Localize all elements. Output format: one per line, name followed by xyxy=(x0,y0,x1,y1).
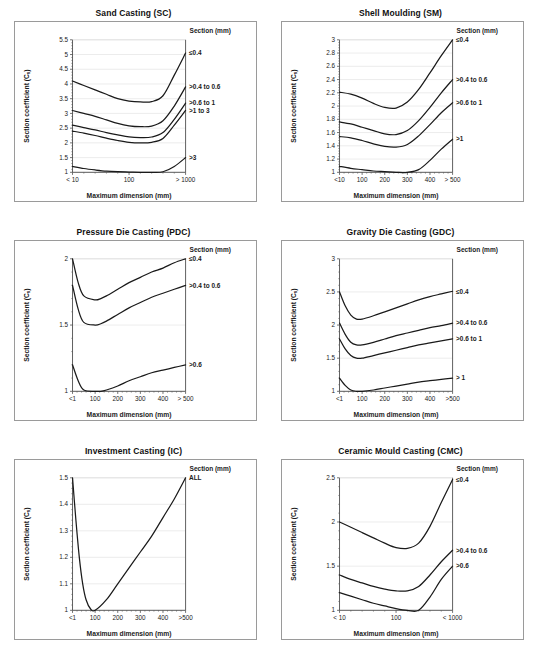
svg-text:1.6: 1.6 xyxy=(326,129,335,136)
y-axis-title: Section coefficient (Cs) xyxy=(290,507,299,580)
svg-text:> 500: > 500 xyxy=(445,176,462,183)
svg-text:1: 1 xyxy=(332,388,336,395)
svg-text:4.5: 4.5 xyxy=(59,65,68,72)
panel-sand-casting: Sand Casting (SC) 11.522.533.544.555.5< … xyxy=(0,0,267,219)
svg-text:2.4: 2.4 xyxy=(326,76,335,83)
x-axis-title: Maximum dimension (mm) xyxy=(354,630,439,638)
panel-shell-moulding: Shell Moulding (SM) 11.21.41.61.822.22.4… xyxy=(267,0,534,219)
x-axis-title: Maximum dimension (mm) xyxy=(87,192,172,200)
svg-text:1.2: 1.2 xyxy=(326,155,335,162)
curve-> 1 xyxy=(340,378,453,391)
curve->0.4 to 0.6 xyxy=(340,550,453,591)
svg-text:400: 400 xyxy=(158,395,169,402)
chart-shell-moulding: 11.21.41.61.822.22.42.62.83<101002003004… xyxy=(282,22,523,201)
svg-text:2: 2 xyxy=(332,518,336,525)
curve-≤0.4 xyxy=(340,480,453,549)
svg-text:300: 300 xyxy=(135,395,146,402)
curve->0.4 to 0.6 xyxy=(73,87,186,127)
svg-text:400: 400 xyxy=(158,614,169,621)
y-axis-title: Section coefficient (Cs) xyxy=(23,69,32,142)
legend-item-0: ALL xyxy=(189,474,202,481)
x-axis-title: Maximum dimension (mm) xyxy=(354,192,439,200)
chart-ceramic-mould-casting: 11.522.5< 10100< 1000Section (mm)≤0.4>0.… xyxy=(282,460,523,639)
chart-title-shell-moulding: Shell Moulding (SM) xyxy=(267,8,534,18)
svg-text:100: 100 xyxy=(124,176,135,183)
chart-frame-shell-moulding: 11.21.41.61.822.22.42.62.83<101002003004… xyxy=(281,21,524,202)
svg-text:200: 200 xyxy=(112,614,123,621)
chart-title-investment-casting: Investment Casting (IC) xyxy=(0,446,267,456)
legend-item-1: >0.4 to 0.6 xyxy=(456,76,488,83)
svg-text:<1: <1 xyxy=(69,395,77,402)
svg-text:1.2: 1.2 xyxy=(59,553,68,560)
curve->0.6 xyxy=(340,566,453,611)
curve->0.4 to 0.6 xyxy=(73,285,186,325)
curve-≤0.4 xyxy=(340,40,453,109)
svg-text:1.4: 1.4 xyxy=(326,142,335,149)
svg-text:1.5: 1.5 xyxy=(326,562,335,569)
svg-text:100: 100 xyxy=(90,614,101,621)
chart-investment-casting: 11.11.21.31.41.5<1100200300400>500Sectio… xyxy=(15,460,256,639)
svg-text:400: 400 xyxy=(425,176,436,183)
legend-item-0: ≤0.4 xyxy=(456,36,469,43)
chart-title-gravity-die-casting: Gravity Die Casting (GDC) xyxy=(267,227,534,237)
svg-text:4: 4 xyxy=(65,80,69,87)
svg-text:< 10: < 10 xyxy=(66,176,79,183)
legend-item-0: ≤0.4 xyxy=(189,49,202,56)
svg-text:1: 1 xyxy=(332,169,336,176)
legend-header: Section (mm) xyxy=(457,465,498,473)
svg-text:1.5: 1.5 xyxy=(59,474,68,481)
legend-header: Section (mm) xyxy=(457,246,498,254)
svg-text:2.6: 2.6 xyxy=(326,62,335,69)
chart-frame-investment-casting: 11.11.21.31.41.5<1100200300400>500Sectio… xyxy=(14,459,257,640)
legend-item-2: >0.6 to 1 xyxy=(456,335,482,342)
svg-text:2: 2 xyxy=(332,102,336,109)
svg-text:>500: >500 xyxy=(178,614,193,621)
svg-text:>500: >500 xyxy=(445,395,460,402)
legend-item-1: >0.4 to 0.6 xyxy=(456,319,488,326)
legend-item-0: ≤0.4 xyxy=(456,476,469,483)
svg-text:100: 100 xyxy=(391,614,402,621)
chart-pressure-die-casting: 11.52<1100200300400> 500Section (mm)≤0.4… xyxy=(15,241,256,420)
chart-frame-ceramic-mould-casting: 11.522.5< 10100< 1000Section (mm)≤0.4>0.… xyxy=(281,459,524,640)
svg-text:2.2: 2.2 xyxy=(326,89,335,96)
legend-item-0: ≤0.4 xyxy=(189,255,202,262)
svg-text:<1: <1 xyxy=(336,395,344,402)
svg-text:1: 1 xyxy=(65,607,69,614)
legend-item-4: >3 xyxy=(189,154,197,161)
y-axis-title: Section coefficient (Cs) xyxy=(290,288,299,361)
svg-text:400: 400 xyxy=(425,395,436,402)
svg-text:< 1000: < 1000 xyxy=(443,614,463,621)
svg-text:300: 300 xyxy=(402,176,413,183)
panel-ceramic-mould-casting: Ceramic Mould Casting (CMC) 11.522.5< 10… xyxy=(267,438,534,657)
svg-text:1: 1 xyxy=(65,169,69,176)
svg-text:1: 1 xyxy=(332,607,336,614)
svg-text:200: 200 xyxy=(379,176,390,183)
curve-≤0.4 xyxy=(73,53,186,102)
svg-text:1.1: 1.1 xyxy=(59,580,68,587)
chart-title-sand-casting: Sand Casting (SC) xyxy=(0,8,267,18)
legend-item-3: > 1 xyxy=(456,374,466,381)
chart-frame-gravity-die-casting: 11.522.53<1100200300400>500Section (mm)≤… xyxy=(281,240,524,421)
y-axis-title: Section coefficient (Cs) xyxy=(23,288,32,361)
x-axis-title: Maximum dimension (mm) xyxy=(87,411,172,419)
svg-text:3.5: 3.5 xyxy=(59,95,68,102)
svg-text:5.5: 5.5 xyxy=(59,36,68,43)
curve->1 xyxy=(340,139,453,172)
legend-item-3: >1 to 3 xyxy=(189,107,210,114)
svg-text:1.4: 1.4 xyxy=(59,500,68,507)
chart-title-ceramic-mould-casting: Ceramic Mould Casting (CMC) xyxy=(267,446,534,456)
legend-header: Section (mm) xyxy=(190,465,231,473)
svg-text:1.5: 1.5 xyxy=(326,354,335,361)
curve-ALL xyxy=(73,478,186,611)
svg-text:3: 3 xyxy=(65,110,69,117)
svg-text:200: 200 xyxy=(112,395,123,402)
curve-≤0.4 xyxy=(73,259,186,300)
legend-item-2: >0.6 xyxy=(189,361,202,368)
legend-item-0: ≤0.4 xyxy=(456,288,469,295)
svg-text:1.3: 1.3 xyxy=(59,527,68,534)
svg-text:<1: <1 xyxy=(69,614,77,621)
svg-text:1.5: 1.5 xyxy=(59,321,68,328)
chart-gravity-die-casting: 11.522.53<1100200300400>500Section (mm)≤… xyxy=(282,241,523,420)
figure-sheet: Sand Casting (SC) 11.522.533.544.555.5< … xyxy=(0,0,534,657)
svg-text:2.5: 2.5 xyxy=(59,124,68,131)
